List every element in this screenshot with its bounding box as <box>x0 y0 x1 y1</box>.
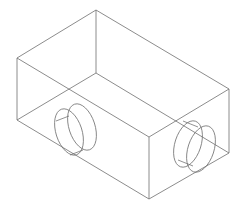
left-cylinder-tangent-top <box>56 116 69 121</box>
edge-bottom-back-left <box>17 73 96 120</box>
right-cylinder-front-ellipse <box>181 122 221 176</box>
box-wireframe-svg <box>0 0 241 205</box>
wireframe-drawing <box>0 0 241 205</box>
left-cylinder <box>49 100 102 159</box>
right-cylinder <box>168 117 221 176</box>
edge-bottom-back-right <box>96 73 229 153</box>
left-cylinder-front-ellipse <box>62 100 102 154</box>
right-cylinder-tangent-bottom <box>178 160 193 166</box>
edge-top-right <box>96 10 229 89</box>
edge-top-front-left <box>17 58 149 137</box>
right-cylinder-back-ellipse <box>168 117 208 171</box>
edge-top-front-right <box>149 89 229 137</box>
edge-bottom-left-front <box>17 120 149 199</box>
box-edges <box>17 10 229 199</box>
edge-top-left <box>17 10 96 58</box>
edge-bottom-right-front <box>149 153 229 199</box>
